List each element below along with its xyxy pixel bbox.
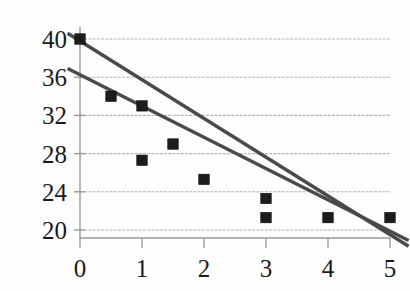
chart-container: 202428323640 012345 (0, 0, 410, 291)
x-tick-label-3: 3 (260, 255, 273, 282)
data-markers-group (75, 34, 396, 223)
y-tick-label-40: 40 (42, 26, 67, 53)
trendline-2 (68, 69, 409, 241)
scatter-plot-with-trendlines: 202428323640 012345 (0, 0, 410, 291)
y-axis-tick-labels: 202428323640 (42, 26, 68, 244)
data-point-marker-3 (137, 155, 148, 166)
data-point-marker-2 (137, 101, 148, 112)
data-point-marker-9 (385, 212, 396, 223)
data-point-marker-5 (199, 174, 210, 185)
y-tick-label-24: 24 (42, 179, 68, 206)
trendlines-group (68, 33, 409, 246)
gridlines-group (80, 39, 390, 230)
x-tick-label-2: 2 (198, 255, 211, 282)
x-tick-label-5: 5 (384, 255, 397, 282)
y-tick-label-20: 20 (42, 217, 67, 244)
data-point-marker-8 (323, 212, 334, 223)
y-tick-label-36: 36 (42, 64, 67, 91)
y-tick-label-28: 28 (42, 141, 67, 168)
x-tick-label-4: 4 (322, 255, 335, 282)
y-tick-label-32: 32 (42, 102, 67, 129)
x-tick-label-0: 0 (74, 255, 87, 282)
data-point-marker-0 (75, 34, 86, 45)
x-axis-tick-labels: 012345 (74, 255, 397, 282)
data-point-marker-6 (261, 193, 272, 204)
data-point-marker-1 (106, 91, 117, 102)
data-point-marker-7 (261, 212, 272, 223)
x-tick-label-1: 1 (136, 255, 149, 282)
data-point-marker-4 (168, 139, 179, 150)
